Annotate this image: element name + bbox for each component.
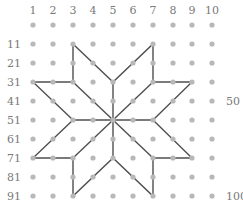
row-label: 31 <box>7 76 21 89</box>
grid-dot <box>50 136 55 141</box>
grid-dot <box>150 60 155 65</box>
grid-dot <box>70 136 75 141</box>
right-label: 50 <box>226 95 240 108</box>
grid-dot <box>30 117 35 122</box>
grid-dot <box>170 136 175 141</box>
grid-dot <box>50 22 55 27</box>
grid-dot <box>50 174 55 179</box>
row-label: 81 <box>7 171 21 184</box>
grid-dot <box>170 22 175 27</box>
grid-dot <box>189 193 194 198</box>
grid-dot <box>50 193 55 198</box>
grid-dot <box>150 117 155 122</box>
grid-dot <box>209 155 214 160</box>
diagram-canvas: 12345678910 112131415161718191 50100 <box>0 0 243 214</box>
grid-dot <box>110 193 115 198</box>
grid-dot <box>130 193 135 198</box>
grid-dot <box>90 22 95 27</box>
column-label: 2 <box>50 4 57 17</box>
column-label: 8 <box>170 4 177 17</box>
right-label: 100 <box>226 190 243 203</box>
column-label: 4 <box>90 4 97 17</box>
grid-dot <box>70 174 75 179</box>
grid-dot <box>110 22 115 27</box>
grid-dot <box>209 136 214 141</box>
right-labels: 50100 <box>226 95 243 203</box>
grid-dot <box>110 117 115 122</box>
grid-dot <box>130 41 135 46</box>
grid-dot <box>209 79 214 84</box>
grid-dot <box>150 136 155 141</box>
grid-dot <box>110 136 115 141</box>
grid-dot <box>30 174 35 179</box>
grid-dot <box>189 60 194 65</box>
row-label: 11 <box>7 38 21 51</box>
grid-dot <box>90 136 95 141</box>
grid-dot <box>30 98 35 103</box>
column-label: 5 <box>110 4 117 17</box>
grid-dot <box>50 60 55 65</box>
grid-dot <box>130 22 135 27</box>
grid-dot <box>170 155 175 160</box>
grid-dot <box>170 60 175 65</box>
column-label: 7 <box>150 4 157 17</box>
row-label: 61 <box>7 133 21 146</box>
grid-dot <box>150 41 155 46</box>
grid-dot <box>150 79 155 84</box>
grid-dot <box>90 155 95 160</box>
grid-dot <box>130 117 135 122</box>
grid-dot <box>50 117 55 122</box>
grid-dot <box>150 155 155 160</box>
grid-dot <box>189 41 194 46</box>
grid-dot <box>70 79 75 84</box>
grid-dot <box>30 41 35 46</box>
grid-dot <box>90 60 95 65</box>
grid-dot <box>110 98 115 103</box>
grid-dot <box>50 155 55 160</box>
grid-dot <box>189 79 194 84</box>
grid-dot <box>90 79 95 84</box>
grid-dot <box>30 155 35 160</box>
row-label: 91 <box>7 190 21 203</box>
grid-dot <box>70 22 75 27</box>
grid-dot <box>70 41 75 46</box>
grid-dot <box>150 193 155 198</box>
grid-dot <box>90 174 95 179</box>
grid-dot <box>70 117 75 122</box>
grid-dot <box>110 60 115 65</box>
grid-dot <box>170 98 175 103</box>
grid-dot <box>50 79 55 84</box>
grid-dot <box>209 60 214 65</box>
column-labels: 12345678910 <box>30 4 220 17</box>
grid-dot <box>110 174 115 179</box>
grid-dot <box>209 41 214 46</box>
row-label: 41 <box>7 95 21 108</box>
grid-dot <box>30 22 35 27</box>
grid-dot <box>189 174 194 179</box>
grid-dot <box>130 60 135 65</box>
row-label: 51 <box>7 114 21 127</box>
grid-dot <box>189 22 194 27</box>
grid-dot <box>30 60 35 65</box>
grid-dot <box>130 155 135 160</box>
star-grid-diagram: 12345678910 112131415161718191 50100 <box>0 0 243 214</box>
row-label: 21 <box>7 57 21 70</box>
grid-dot <box>30 193 35 198</box>
grid-dot <box>50 98 55 103</box>
grid-dot <box>150 22 155 27</box>
grid-dot <box>30 79 35 84</box>
grid-dot <box>209 117 214 122</box>
row-label: 71 <box>7 152 21 165</box>
grid-dot <box>150 174 155 179</box>
grid-dot <box>130 79 135 84</box>
grid-dot <box>170 79 175 84</box>
grid-dot <box>170 193 175 198</box>
grid-dot <box>189 98 194 103</box>
column-label: 6 <box>130 4 137 17</box>
grid-dot <box>130 136 135 141</box>
grid-dot <box>70 98 75 103</box>
row-labels: 112131415161718191 <box>7 38 21 203</box>
grid-dot <box>189 117 194 122</box>
grid-dot <box>150 98 155 103</box>
column-label: 3 <box>70 4 77 17</box>
